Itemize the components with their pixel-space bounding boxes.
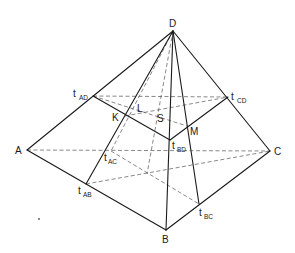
edge-BD xyxy=(166,31,173,230)
segment-D-tAB xyxy=(86,31,173,184)
svg-text:t: t xyxy=(104,152,107,163)
svg-text:BD: BD xyxy=(177,146,186,153)
svg-text:AD: AD xyxy=(79,94,88,101)
svg-text:BC: BC xyxy=(204,213,213,220)
label-M: M xyxy=(190,126,198,137)
label-S: S xyxy=(157,113,164,124)
edge-BC xyxy=(166,151,270,230)
label-K: K xyxy=(112,112,119,123)
segment-tAB-C-hidden xyxy=(86,151,270,184)
label-B: B xyxy=(162,234,169,245)
svg-text:AC: AC xyxy=(108,158,117,165)
svg-text:t: t xyxy=(231,91,234,102)
segment-D-tBC xyxy=(173,31,199,204)
segment-tBD-tCD xyxy=(170,97,228,140)
svg-text:AB: AB xyxy=(83,191,92,198)
label-C: C xyxy=(274,146,281,157)
svg-text:CD: CD xyxy=(237,97,247,104)
label-tBC: t BC xyxy=(199,207,213,220)
label-tAB: t AB xyxy=(78,185,92,198)
label-A: A xyxy=(15,145,22,156)
segment-tAD-tCD-hidden xyxy=(93,96,228,97)
svg-text:t: t xyxy=(73,88,76,99)
svg-text:t: t xyxy=(172,140,175,151)
label-D: D xyxy=(169,18,176,29)
label-tAD: t AD xyxy=(73,88,88,101)
tetrahedron-diagram: D A C B K L S M t AD t CD t BD t AC t AB… xyxy=(0,0,295,253)
stray-mark xyxy=(38,218,40,220)
segment-D-tAC-hidden xyxy=(111,31,173,151)
edge-AD xyxy=(27,31,173,150)
segment-tAC-tBC-hidden xyxy=(111,151,199,204)
label-tAC: t AC xyxy=(104,152,117,165)
edge-AC-hidden xyxy=(27,150,270,151)
svg-text:t: t xyxy=(199,207,202,218)
label-tBD: t BD xyxy=(172,140,186,153)
edge-CD xyxy=(173,31,270,151)
label-tCD: t CD xyxy=(231,91,247,104)
svg-text:t: t xyxy=(78,185,81,196)
edge-AB xyxy=(27,150,166,230)
label-L: L xyxy=(137,103,143,114)
